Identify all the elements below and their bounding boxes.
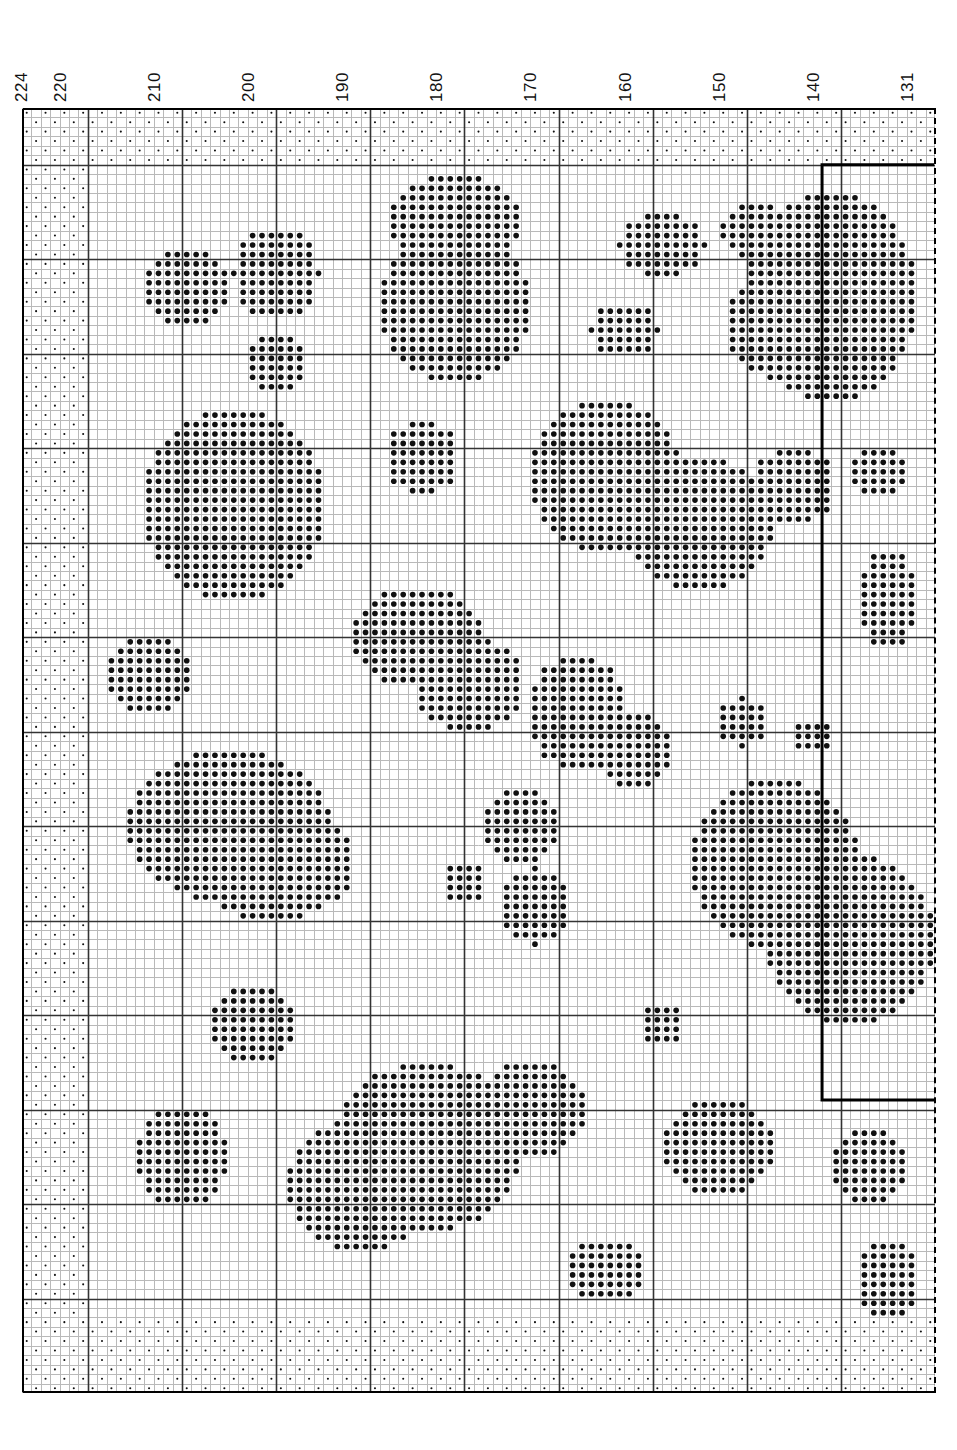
column-label: 180: [428, 72, 445, 102]
column-label: 170: [522, 72, 539, 102]
column-label: 131: [899, 72, 916, 102]
column-label: 200: [240, 72, 257, 102]
column-label: 220: [52, 72, 69, 102]
column-label: 224: [13, 72, 30, 102]
column-label: 160: [617, 72, 634, 102]
sheet-right-dashed-edge: [934, 108, 936, 1393]
column-number-ruler: 224220210200190180170160150140131: [0, 0, 957, 108]
column-label: 210: [146, 72, 163, 102]
column-label: 150: [711, 72, 728, 102]
cross-stitch-chart: 224220210200190180170160150140131: [0, 0, 957, 1450]
stitch-grid-container[interactable]: [22, 108, 935, 1393]
stitch-grid-canvas[interactable]: [22, 108, 935, 1393]
column-label: 190: [334, 72, 351, 102]
column-label: 140: [805, 72, 822, 102]
